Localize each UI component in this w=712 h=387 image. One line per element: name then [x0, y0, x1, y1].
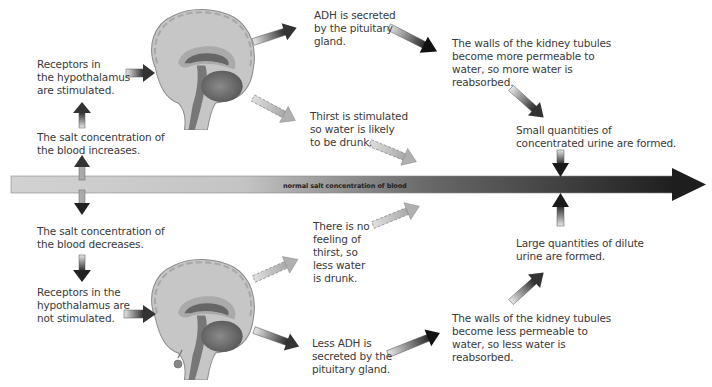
label-no-thirst: There is no feeling of thirst, so less w…	[313, 220, 370, 285]
main-axis-label: normal salt concentration of blood	[283, 182, 407, 190]
arrow-kidney-to-large-urine	[505, 266, 550, 309]
arrow-large-urine-to-bar	[552, 193, 569, 226]
arrow-brain-to-adh	[250, 19, 299, 50]
arrow-brain-to-less-adh	[251, 322, 302, 355]
brain-bottom-icon	[152, 259, 255, 380]
brain-top-icon	[152, 9, 255, 130]
arrow-less-adh-to-kidney	[385, 325, 444, 363]
arrow-brain-to-no-thirst	[250, 251, 301, 287]
arrow-up-to-receptors	[73, 102, 91, 128]
arrow-receptors-to-brain-top	[126, 64, 155, 82]
label-less-adh: Less ADH is secreted by the pituitary gl…	[312, 337, 392, 376]
arrow-down-to-receptors	[73, 255, 91, 282]
pituitary-icon	[174, 360, 182, 368]
arrow-no-thirst-to-bar	[370, 198, 423, 233]
arrow-brain-to-thirst	[249, 90, 300, 128]
label-adh-secreted: ADH is secreted by the pituitary gland.	[314, 9, 395, 48]
label-kidney-less-permeable: The walls of the kidney tubules become l…	[452, 312, 611, 364]
label-small-urine: Small quantities of concentrated urine a…	[516, 124, 676, 150]
label-salt-decreases: The salt concentration of the blood decr…	[37, 225, 165, 251]
label-receptors-stimulated: Receptors in the hypothalamus are stimul…	[37, 58, 130, 97]
label-kidney-more-permeable: The walls of the kidney tubules become m…	[452, 37, 611, 89]
arrow-small-urine-to-bar	[552, 150, 569, 177]
label-large-urine: Large quantities of dilute urine are for…	[516, 237, 644, 263]
label-receptors-not-stimulated: Receptors in the hypothalamus are not st…	[37, 286, 130, 325]
label-salt-increases: The salt concentration of the blood incr…	[37, 131, 165, 157]
label-thirst-stimulated: Thirst is stimulated so water is likely …	[310, 110, 408, 149]
